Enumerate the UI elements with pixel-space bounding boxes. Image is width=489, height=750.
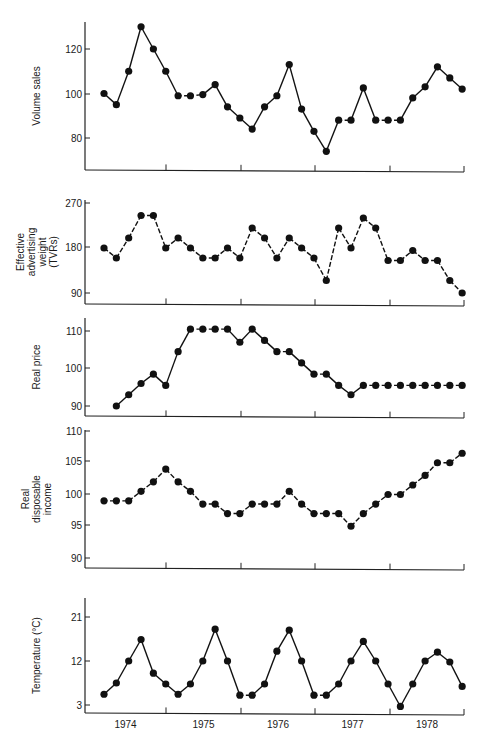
data-point — [100, 244, 107, 251]
x-axis-line — [85, 416, 464, 418]
series-segment — [277, 65, 289, 96]
data-point — [422, 472, 429, 479]
data-point — [310, 254, 317, 261]
data-point — [162, 244, 169, 251]
data-point — [199, 500, 206, 507]
series-segment — [116, 661, 128, 683]
data-point — [273, 648, 280, 655]
data-point — [310, 692, 317, 699]
data-point — [273, 92, 280, 99]
data-point — [113, 254, 120, 261]
series-segment — [240, 228, 252, 258]
y-axis-label: Effectiveadvertisingweight(TVRs) — [15, 228, 59, 276]
data-point — [150, 45, 157, 52]
data-point — [372, 382, 379, 389]
data-point — [236, 692, 243, 699]
data-point — [310, 510, 317, 517]
series-segment — [400, 98, 412, 120]
data-point — [249, 126, 256, 133]
panel-temperature: 31221Temperature (°C) — [31, 598, 466, 715]
data-point — [310, 128, 317, 135]
data-point — [125, 657, 132, 664]
y-axis-label: Realdisposableincome — [20, 475, 53, 523]
panel-real-price: 90100110Real price — [31, 318, 466, 418]
data-point — [125, 68, 132, 75]
series-segment — [228, 661, 240, 695]
data-point — [286, 348, 293, 355]
data-point — [100, 497, 107, 504]
series-segment — [153, 49, 165, 71]
y-tick-label: 80 — [71, 133, 83, 144]
data-point — [384, 257, 391, 264]
data-point — [236, 510, 243, 517]
data-point — [113, 402, 120, 409]
data-point — [335, 680, 342, 687]
series-segment — [129, 27, 141, 72]
data-point — [150, 670, 157, 677]
series-segment — [363, 88, 375, 120]
data-point — [212, 81, 219, 88]
data-point — [199, 657, 206, 664]
y-tick-label: 100 — [65, 89, 82, 100]
data-point — [372, 500, 379, 507]
data-point — [323, 692, 330, 699]
data-point — [397, 703, 404, 710]
data-point — [187, 244, 194, 251]
data-point — [310, 371, 317, 378]
panel-real-disposable-income: 9095100105110Realdisposableincome — [20, 426, 466, 571]
data-point — [125, 497, 132, 504]
series-segment — [141, 639, 153, 673]
data-point — [409, 481, 416, 488]
data-point — [249, 692, 256, 699]
data-point — [409, 247, 416, 254]
series-segment — [289, 630, 301, 661]
series-segment — [388, 684, 400, 706]
y-tick-label: 95 — [71, 520, 83, 531]
y-tick-label: 180 — [65, 242, 82, 253]
data-point — [100, 691, 107, 698]
data-point — [384, 680, 391, 687]
data-point — [249, 500, 256, 507]
data-point — [175, 691, 182, 698]
data-point — [249, 326, 256, 333]
x-axis-line — [85, 304, 464, 306]
year-label-1976: 1976 — [267, 719, 290, 730]
multi-panel-time-series-figure: 80100120Volume sales90180270Effectiveadv… — [0, 0, 489, 750]
data-point — [409, 680, 416, 687]
data-point — [137, 23, 144, 30]
data-point — [286, 234, 293, 241]
data-point — [372, 224, 379, 231]
data-point — [224, 510, 231, 517]
data-point — [261, 234, 268, 241]
series-segment — [178, 329, 190, 352]
data-point — [372, 117, 379, 124]
data-point — [434, 257, 441, 264]
data-point — [347, 657, 354, 664]
panel-advertising-weight: 90180270Effectiveadvertisingweight(TVRs) — [15, 198, 466, 307]
data-point — [199, 254, 206, 261]
series-segment — [302, 661, 314, 695]
series-segment — [314, 258, 326, 281]
data-point — [422, 257, 429, 264]
series-segment — [166, 71, 178, 95]
data-point — [162, 466, 169, 473]
series-segment — [129, 639, 141, 661]
data-point — [137, 380, 144, 387]
data-point — [150, 371, 157, 378]
series-segment — [450, 662, 462, 686]
data-point — [347, 117, 354, 124]
data-point — [335, 117, 342, 124]
year-label-1974: 1974 — [114, 719, 137, 730]
y-tick-label: 3 — [76, 700, 82, 711]
data-point — [150, 212, 157, 219]
series-segment — [376, 228, 388, 261]
year-label-1978: 1978 — [416, 719, 439, 730]
series-segment — [326, 228, 338, 281]
data-point — [434, 63, 441, 70]
data-point — [409, 94, 416, 101]
data-point — [212, 326, 219, 333]
data-point — [434, 649, 441, 656]
data-point — [298, 500, 305, 507]
data-point — [360, 510, 367, 517]
data-point — [434, 459, 441, 466]
